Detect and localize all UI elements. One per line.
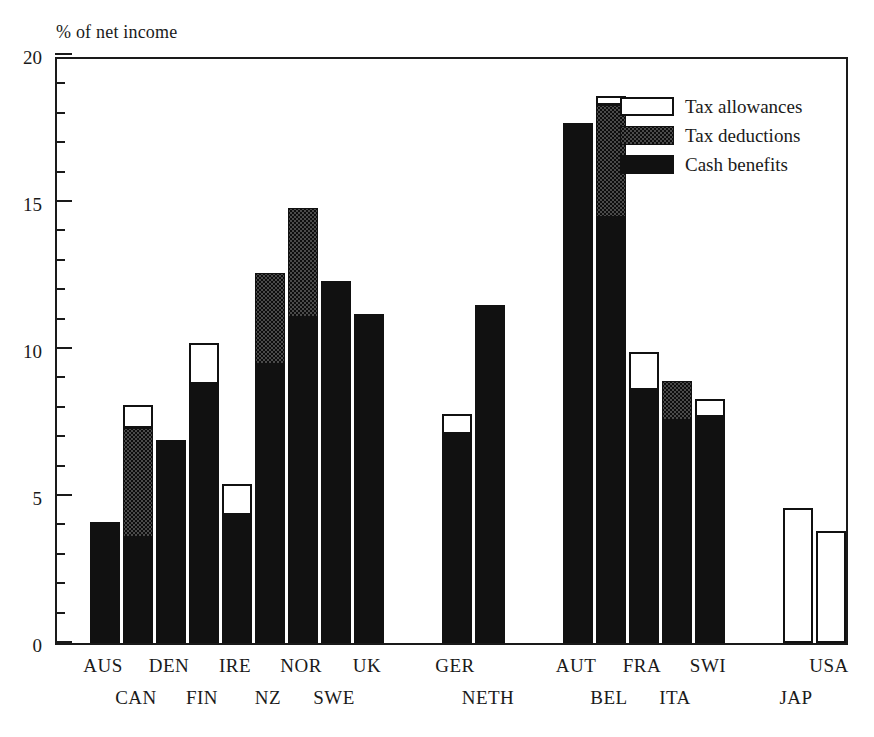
legend-swatch-deductions-icon — [620, 126, 674, 145]
bar-uk — [354, 314, 384, 643]
bar-segment-cash-benefits — [662, 420, 692, 643]
bar-segment-cash-benefits — [90, 522, 120, 643]
bar-swi — [695, 399, 725, 643]
legend-item-allowances: Tax allowances — [620, 92, 802, 121]
bar-nor — [288, 208, 318, 643]
bar-ger — [442, 414, 472, 643]
bar-den — [156, 440, 186, 643]
bar-aus — [90, 522, 120, 643]
bar-segment-cash-benefits — [695, 417, 725, 643]
bar-segment-tax-deductions — [662, 381, 692, 419]
x-axis-label-ire: IRE — [219, 656, 251, 675]
x-axis-label-swi: SWI — [690, 656, 726, 675]
y-axis-minor-tick — [55, 465, 65, 467]
y-axis-minor-tick — [55, 82, 65, 84]
x-axis-tick-labels: AUSDENIRENORUKGERAUTFRASWIUSACANFINNZSWE… — [0, 652, 874, 737]
y-axis-minor-tick — [55, 376, 65, 378]
bar-segment-cash-benefits — [442, 434, 472, 643]
y-axis-minor-tick — [55, 171, 65, 173]
y-axis-major-tick — [55, 641, 72, 643]
x-axis-label-ita: ITA — [659, 688, 691, 707]
chart-figure: % of net income 20151050 Tax allowancesT… — [0, 0, 874, 737]
x-axis-label-ger: GER — [435, 656, 475, 675]
y-axis-minor-tick — [55, 612, 65, 614]
legend-label-allowances: Tax allowances — [685, 97, 802, 116]
bar-segment-cash-benefits — [189, 384, 219, 643]
legend-item-deductions: Tax deductions — [620, 121, 802, 150]
y-axis-minor-tick — [55, 582, 65, 584]
bar-fra — [629, 352, 659, 643]
bar-aut — [563, 123, 593, 643]
bar-segment-tax-allowances — [442, 414, 472, 435]
y-axis-minor-tick — [55, 288, 65, 290]
y-axis-tick-label: 20 — [23, 48, 42, 67]
bar-segment-cash-benefits — [222, 515, 252, 643]
y-axis-major-tick — [55, 347, 72, 349]
bar-neth — [475, 305, 505, 643]
bar-ire — [222, 484, 252, 643]
x-axis-label-aus: AUS — [83, 656, 123, 675]
bar-segment-tax-allowances — [629, 352, 659, 390]
bar-segment-cash-benefits — [255, 364, 285, 643]
legend-swatch-cash-icon — [620, 155, 674, 174]
bar-segment-tax-deductions — [255, 273, 285, 364]
x-axis-label-swe: SWE — [313, 688, 355, 707]
x-axis-label-jap: JAP — [779, 688, 812, 707]
bar-segment-cash-benefits — [354, 314, 384, 643]
bar-jap — [783, 508, 813, 643]
chart-legend: Tax allowancesTax deductionsCash benefit… — [620, 92, 802, 179]
bar-fin — [189, 343, 219, 643]
x-axis-label-neth: NETH — [462, 688, 515, 707]
bar-segment-tax-allowances — [123, 405, 153, 429]
y-axis-tick-label: 5 — [33, 489, 43, 508]
x-axis-label-den: DEN — [149, 656, 190, 675]
x-axis-label-aut: AUT — [556, 656, 597, 675]
x-axis-label-nor: NOR — [280, 656, 322, 675]
bar-segment-cash-benefits — [596, 217, 626, 643]
legend-label-deductions: Tax deductions — [685, 126, 800, 145]
bar-segment-tax-allowances — [695, 399, 725, 417]
bar-segment-cash-benefits — [629, 390, 659, 643]
y-axis-minor-tick — [55, 259, 65, 261]
bar-segment-cash-benefits — [288, 317, 318, 643]
y-axis-minor-tick — [55, 318, 65, 320]
x-axis-label-fra: FRA — [623, 656, 661, 675]
bar-segment-tax-deductions — [288, 208, 318, 317]
x-axis-label-usa: USA — [809, 656, 849, 675]
bar-can — [123, 405, 153, 643]
x-axis-label-nz: NZ — [255, 688, 281, 707]
bar-swe — [321, 281, 351, 643]
y-axis-minor-tick — [55, 406, 65, 408]
bar-usa — [816, 531, 846, 643]
bar-segment-cash-benefits — [156, 440, 186, 643]
x-axis-label-fin: FIN — [186, 688, 218, 707]
bar-segment-cash-benefits — [475, 305, 505, 643]
x-axis-label-uk: UK — [353, 656, 381, 675]
bar-segment-cash-benefits — [321, 281, 351, 643]
bar-segment-tax-deductions — [123, 428, 153, 537]
legend-label-cash: Cash benefits — [685, 155, 788, 174]
y-axis-minor-tick — [55, 435, 65, 437]
bar-ita — [662, 381, 692, 643]
bar-nz — [255, 273, 285, 643]
x-axis-label-bel: BEL — [590, 688, 627, 707]
bar-segment-tax-allowances — [816, 531, 846, 643]
bar-segment-tax-allowances — [783, 508, 813, 643]
y-axis-major-tick — [55, 53, 72, 55]
legend-swatch-allowances-icon — [620, 97, 674, 116]
y-axis-minor-tick — [55, 523, 65, 525]
y-axis-tick-label: 15 — [23, 195, 42, 214]
bar-segment-cash-benefits — [563, 123, 593, 643]
y-axis-major-tick — [55, 200, 72, 202]
y-axis-minor-tick — [55, 553, 65, 555]
x-axis-label-can: CAN — [115, 688, 157, 707]
y-axis-minor-tick — [55, 112, 65, 114]
bar-segment-cash-benefits — [123, 537, 153, 643]
y-axis-major-tick — [55, 494, 72, 496]
bar-segment-tax-allowances — [222, 484, 252, 515]
y-axis-tick-label: 10 — [23, 342, 42, 361]
y-axis-tick-labels: 20151050 — [0, 57, 48, 645]
y-axis-minor-tick — [55, 229, 65, 231]
bar-segment-tax-allowances — [189, 343, 219, 384]
y-axis-caption: % of net income — [56, 22, 177, 43]
